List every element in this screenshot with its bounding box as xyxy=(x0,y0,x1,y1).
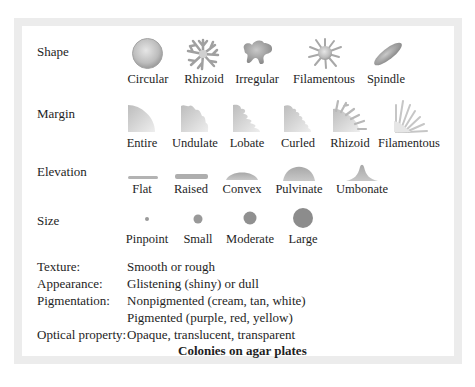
row-label-shape: Shape xyxy=(37,44,69,60)
curled-margin-icon xyxy=(283,103,313,133)
convex-elevation-icon xyxy=(226,169,258,180)
caption-filamentous-shape: Filamentous xyxy=(293,72,355,87)
pigmentation-value-nonpigmented: Nonpigmented (cream, tan, white) xyxy=(127,293,306,309)
filamentous-shape-icon xyxy=(306,37,344,69)
caption-flat: Flat xyxy=(132,182,151,197)
umbonate-elevation-icon xyxy=(346,164,378,181)
caption-curled: Curled xyxy=(281,136,315,151)
flat-elevation-icon xyxy=(128,175,158,180)
irregular-shape-icon xyxy=(240,37,276,67)
pigmentation-value-pigmented: Pigmented (purple, red, yellow) xyxy=(127,310,293,326)
entire-margin-icon xyxy=(127,103,157,133)
appearance-label: Appearance: xyxy=(37,276,103,292)
row-label-elevation: Elevation xyxy=(37,164,87,180)
pulvinate-elevation-icon xyxy=(283,164,315,181)
caption-rhizoid-shape: Rhizoid xyxy=(184,72,224,87)
caption-pulvinate: Pulvinate xyxy=(275,182,322,197)
caption-umbonate: Umbonate xyxy=(336,182,388,197)
appearance-value: Glistening (shiny) or dull xyxy=(127,276,259,292)
caption-convex: Convex xyxy=(223,182,262,197)
optical-property-label: Optical property: xyxy=(37,327,126,343)
small-size-icon xyxy=(193,214,203,224)
pigmentation-label: Pigmentation: xyxy=(37,293,110,309)
caption-large: Large xyxy=(289,232,318,247)
lobate-margin-icon xyxy=(232,103,262,133)
pinpoint-size-icon xyxy=(144,216,150,222)
caption-irregular: Irregular xyxy=(235,72,279,87)
caption-filamentous-margin: Filamentous xyxy=(378,136,440,151)
caption-moderate: Moderate xyxy=(226,232,274,247)
undulate-margin-icon xyxy=(180,103,210,133)
filamentous-margin-icon xyxy=(393,99,429,133)
caption-undulate: Undulate xyxy=(172,136,218,151)
caption-small: Small xyxy=(183,232,212,247)
rhizoid-shape-icon xyxy=(185,36,221,72)
row-label-size: Size xyxy=(37,213,59,229)
caption-circular: Circular xyxy=(128,72,169,87)
figure-title: Colonies on agar plates xyxy=(178,343,307,359)
row-label-margin: Margin xyxy=(37,106,75,122)
raised-elevation-icon xyxy=(175,173,208,180)
spindle-shape-icon xyxy=(371,40,405,68)
caption-rhizoid-margin: Rhizoid xyxy=(330,136,370,151)
caption-entire: Entire xyxy=(127,136,158,151)
texture-value: Smooth or rough xyxy=(127,259,215,275)
caption-spindle: Spindle xyxy=(367,72,405,87)
texture-label: Texture: xyxy=(37,259,80,275)
caption-lobate: Lobate xyxy=(230,136,265,151)
optical-property-value: Opaque, translucent, transparent xyxy=(127,327,295,343)
caption-raised: Raised xyxy=(174,182,208,197)
caption-pinpoint: Pinpoint xyxy=(126,232,168,247)
circular-shape-icon xyxy=(131,37,164,70)
large-size-icon xyxy=(293,208,313,228)
rhizoid-margin-icon xyxy=(332,99,368,133)
moderate-size-icon xyxy=(243,211,257,225)
